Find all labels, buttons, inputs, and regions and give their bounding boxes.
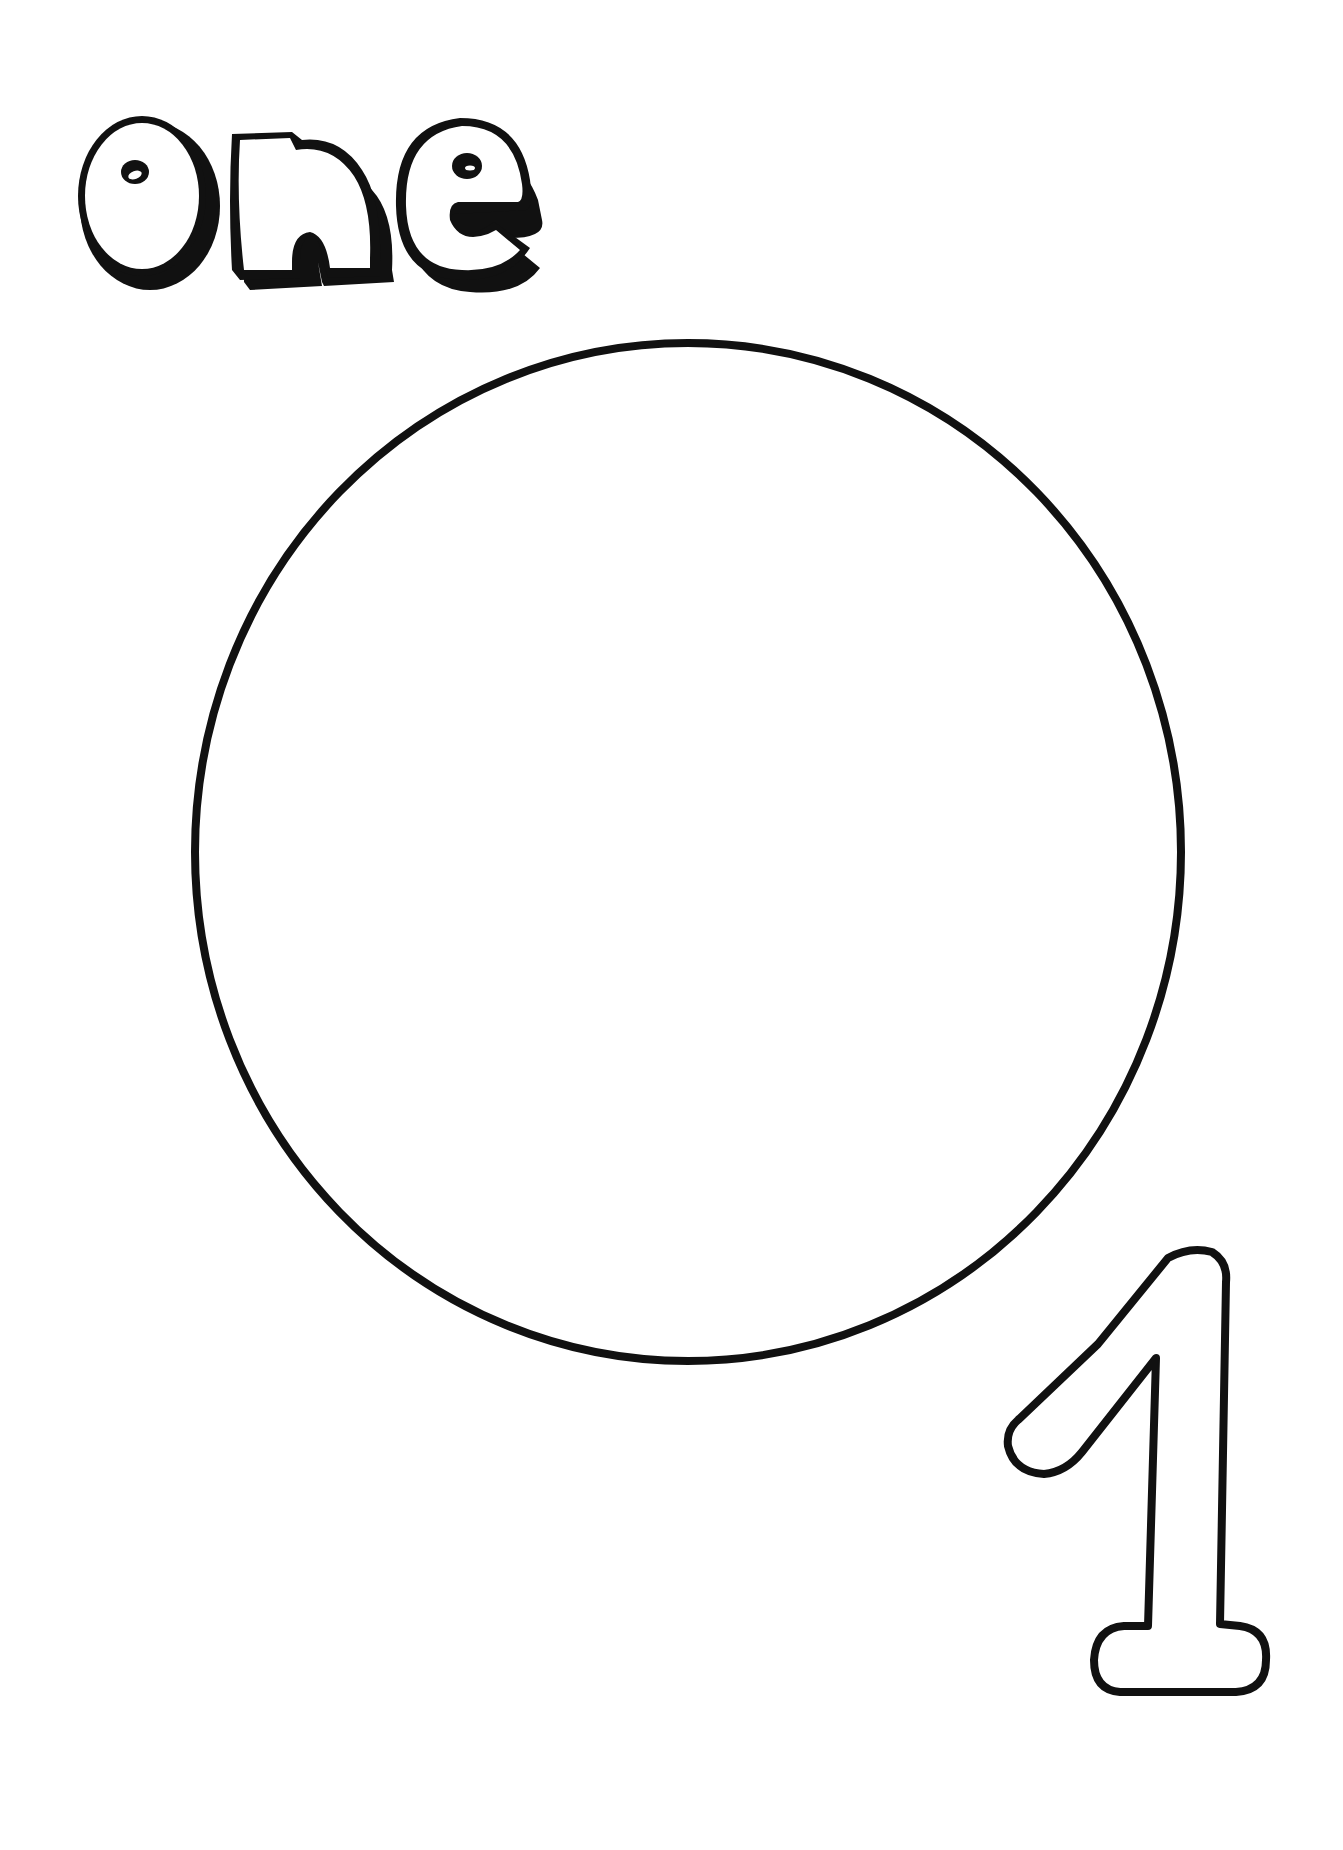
numeral-one-outline [1008,1250,1266,1692]
worksheet-artwork [0,0,1343,1850]
bubble-letter-e [396,118,542,293]
bubble-word-one [78,116,542,293]
circle-shape-outline [195,343,1181,1361]
bubble-letter-n [230,132,394,290]
bubble-letter-o [78,116,220,290]
coloring-page: one 1 circle [0,0,1343,1850]
